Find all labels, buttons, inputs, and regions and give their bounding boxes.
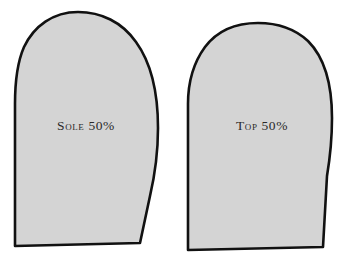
pattern-diagram: Sole 50% Top 50%	[0, 0, 343, 266]
pattern-piece-top[interactable]: Top 50%	[188, 23, 332, 250]
pattern-piece-sole[interactable]: Sole 50%	[15, 12, 158, 246]
diagram-canvas: Sole 50% Top 50%	[0, 0, 343, 266]
top-shape-fill	[188, 23, 332, 250]
top-label: Top 50%	[236, 118, 288, 133]
sole-label: Sole 50%	[57, 118, 115, 133]
